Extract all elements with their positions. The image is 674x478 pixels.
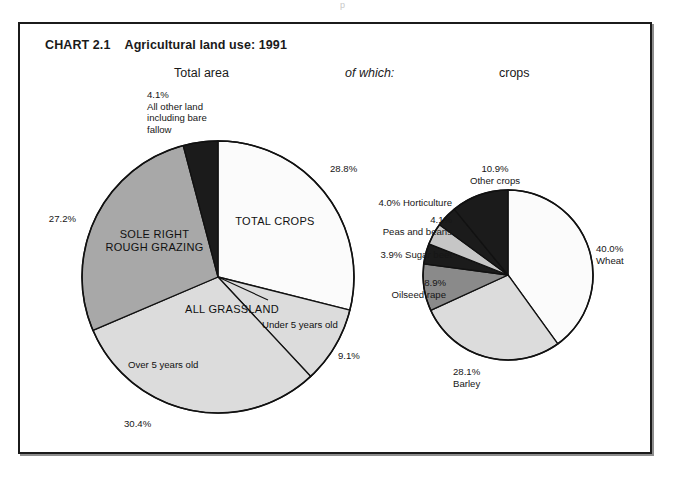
label-peas-name: Peas and beans bbox=[348, 226, 452, 238]
pie-total-area bbox=[82, 141, 354, 413]
label-other-land-line1: All other land bbox=[147, 101, 207, 113]
label-other-crops: 10.9% Other crops bbox=[455, 163, 535, 186]
label-barley: 28.1% Barley bbox=[453, 366, 480, 389]
label-under5: Under 5 years old bbox=[262, 318, 357, 331]
label-sole-right-line1: SOLE RIGHT bbox=[97, 228, 212, 241]
label-under5-pct: 9.1% bbox=[338, 350, 360, 362]
chart-page: p CHART 2.1Agricultural land use: 1991 T… bbox=[0, 0, 674, 478]
label-sugar-beet: 3.9% Sugar beet bbox=[348, 249, 452, 261]
label-sole-right-grazing: SOLE RIGHT ROUGH GRAZING bbox=[97, 228, 212, 254]
label-barley-name: Barley bbox=[453, 378, 480, 390]
label-total-crops-pct: 28.8% bbox=[330, 163, 357, 175]
label-sole-right-line2: ROUGH GRAZING bbox=[97, 241, 212, 254]
label-peas-pct: 4.1% bbox=[348, 214, 452, 226]
label-all-grassland: ALL GRASSLAND bbox=[172, 303, 292, 316]
label-oilseed-name: Oilseed rape bbox=[348, 289, 446, 301]
label-wheat-pct: 40.0% bbox=[596, 243, 624, 255]
label-barley-pct: 28.1% bbox=[453, 366, 480, 378]
label-peas-and-beans: 4.1% Peas and beans bbox=[348, 214, 452, 237]
label-other-crops-pct: 10.9% bbox=[455, 163, 535, 175]
label-wheat-name: Wheat bbox=[596, 255, 624, 267]
label-other-land-line3: fallow bbox=[147, 124, 207, 136]
label-grazing-pct: 27.2% bbox=[26, 213, 76, 225]
label-other-land-line2: including bare bbox=[147, 112, 207, 124]
label-other-land: 4.1% All other land including bare fallo… bbox=[147, 89, 207, 135]
label-oilseed-pct: 8.9% bbox=[348, 277, 446, 289]
label-total-crops: TOTAL CROPS bbox=[220, 215, 330, 228]
label-oilseed-rape: 8.9% Oilseed rape bbox=[348, 277, 446, 300]
label-horticulture: 4.0% Horticulture bbox=[350, 197, 452, 209]
label-other-land-pct: 4.1% bbox=[147, 89, 207, 101]
label-wheat: 40.0% Wheat bbox=[596, 243, 624, 266]
label-over5-pct: 30.4% bbox=[124, 418, 151, 430]
label-over5: Over 5 years old bbox=[128, 358, 228, 371]
label-other-crops-name: Other crops bbox=[455, 175, 535, 187]
